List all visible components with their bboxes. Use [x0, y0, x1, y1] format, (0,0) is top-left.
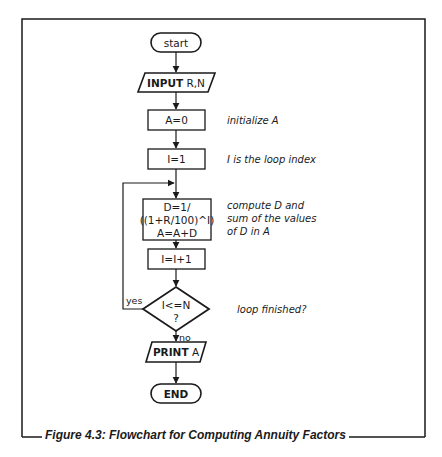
svg-text:PRINT A: PRINT A [153, 346, 200, 358]
input-args: R,N [183, 77, 205, 89]
figure-caption: Figure 4.3: Flowchart for Computing Annu… [42, 428, 349, 442]
init-i-label: I=1 [167, 153, 186, 165]
decision-annotation: loop finished? [237, 304, 307, 315]
compute-line-1: D=1/ [163, 201, 191, 213]
end-terminal: END [151, 384, 201, 403]
start-terminal: start [151, 33, 201, 52]
print-keyword: PRINT [153, 346, 189, 358]
compute-line-3: A=A+D [157, 227, 197, 239]
decision-line-1: I<=N [162, 299, 191, 311]
init-a-box: A=0 [148, 110, 205, 130]
start-label: start [164, 37, 188, 49]
print-node: PRINT A [146, 342, 206, 362]
init-i-annotation: I is the loop index [227, 154, 316, 165]
end-label: END [164, 388, 189, 400]
input-keyword: INPUT [147, 77, 184, 89]
init-a-annotation: initialize A [227, 115, 279, 126]
compute-annotation-2: sum of the values [227, 213, 316, 224]
flowchart-diagram: start INPUT R,N A=0 initialize A I=1 I i… [0, 0, 442, 457]
init-i-box: I=1 [148, 149, 205, 169]
decision-line-2: ? [173, 312, 179, 324]
figure-frame [22, 19, 425, 437]
init-a-label: A=0 [165, 114, 188, 126]
input-node: INPUT R,N [138, 73, 215, 92]
increment-box: I=I+1 [148, 249, 205, 269]
increment-label: I=I+1 [161, 253, 191, 265]
yes-label: yes [126, 295, 142, 306]
compute-line-2: ((1+R/100)^I) [140, 214, 215, 226]
compute-annotation-3: of D in A [227, 226, 270, 237]
decision-diamond: I<=N ? [143, 287, 209, 331]
compute-annotation-1: compute D and [227, 200, 305, 211]
svg-text:INPUT R,N: INPUT R,N [147, 77, 205, 89]
print-args: A [189, 346, 200, 358]
compute-box: D=1/ ((1+R/100)^I) A=A+D [140, 199, 215, 240]
